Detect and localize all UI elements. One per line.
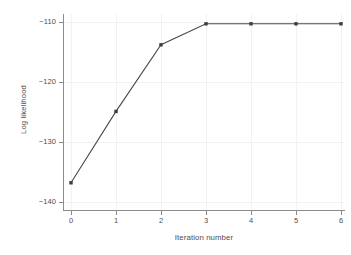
series-line-log-likelihood [71, 24, 341, 183]
data-point-marker [204, 22, 207, 25]
data-point-marker [339, 22, 342, 25]
data-point-marker [294, 22, 297, 25]
data-point-marker [249, 22, 252, 25]
data-point-marker [69, 181, 72, 184]
data-point-marker [114, 110, 117, 113]
data-series-layer [0, 0, 351, 255]
series-markers [69, 22, 342, 184]
log-likelihood-line-chart: −110 −120 −130 −140 0 1 2 3 4 5 6 Iterat… [0, 0, 351, 255]
data-point-marker [159, 43, 162, 46]
